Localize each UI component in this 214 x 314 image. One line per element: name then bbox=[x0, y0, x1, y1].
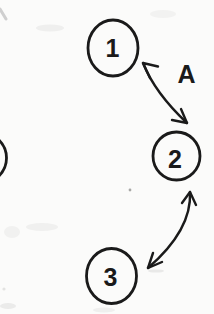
node-3: 3 bbox=[87, 249, 137, 304]
node-label-2: 2 bbox=[168, 145, 182, 173]
node-circle-partial bbox=[0, 133, 7, 183]
node-1: 1 bbox=[88, 20, 138, 76]
node-2: 2 bbox=[153, 132, 200, 180]
edge-label-a: A bbox=[177, 60, 195, 88]
state-diagram: 1 2 3 A bbox=[0, 0, 214, 314]
edge-2-3-double-arrow bbox=[148, 192, 196, 268]
scanned-diagram-page: 1 2 3 A bbox=[0, 0, 214, 314]
node-label-1: 1 bbox=[106, 34, 120, 62]
edge-1-2-arrowhead-top bbox=[143, 63, 158, 78]
node-label-3: 3 bbox=[104, 263, 118, 291]
edge-2-3-shaft bbox=[148, 192, 190, 268]
